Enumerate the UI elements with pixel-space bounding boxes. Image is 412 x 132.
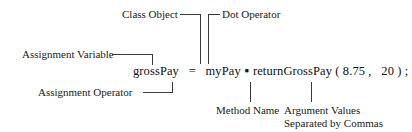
annotation-label-dot-operator: Dot Operator — [222, 8, 280, 21]
code-dot-operator: ▪ — [244, 63, 250, 78]
annotation-label-argument-values-line2: Separated by Commas — [284, 117, 404, 130]
annotation-label-argument-values-line1: Argument Values — [284, 104, 404, 117]
leader-dot-operator-vertical — [208, 14, 209, 64]
code-semicolon: ; — [405, 64, 409, 78]
leader-assignment-operator-vertical — [172, 82, 173, 93]
annotation-label-argument-values: Argument Values Separated by Commas — [284, 104, 404, 130]
annotation-label-class-object: Class Object — [122, 8, 178, 21]
code-method-name: returnGrossPay — [253, 64, 332, 78]
code-assignment-variable: grossPay — [133, 64, 179, 78]
code-space-2 — [199, 64, 202, 78]
code-close-paren: ) — [397, 64, 401, 78]
leader-assignment-operator-horizontal — [143, 92, 173, 93]
code-class-object: myPay — [206, 64, 241, 78]
annotation-label-assignment-variable: Assignment Variable — [22, 48, 114, 61]
leader-method-name-vertical — [250, 82, 251, 102]
code-open-paren: ( — [335, 64, 339, 78]
code-statement: grossPay = myPay ▪ returnGrossPay ( 8.75… — [133, 63, 408, 79]
code-comma: , — [368, 64, 371, 78]
leader-dot-operator-horizontal — [208, 14, 220, 15]
code-argument-2: 20 — [381, 64, 394, 78]
annotation-label-method-name: Method Name — [216, 104, 279, 117]
leader-assignment-variable-horizontal — [112, 54, 153, 55]
leader-class-object-horizontal — [180, 14, 201, 15]
annotation-label-assignment-operator: Assignment Operator — [38, 86, 132, 99]
code-space-1 — [182, 64, 185, 78]
leader-argument-values-vertical — [311, 82, 312, 102]
code-argument-1: 8.75 — [343, 64, 365, 78]
annotated-code-diagram: Class Object Dot Operator Assignment Var… — [0, 0, 412, 132]
code-space-3 — [375, 64, 378, 78]
leader-class-object-vertical — [200, 14, 201, 64]
code-assignment-operator: = — [189, 64, 196, 78]
